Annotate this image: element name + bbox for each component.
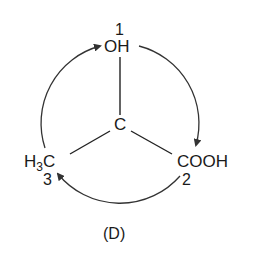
arrow-2-to-3 <box>58 174 180 203</box>
caption: (D) <box>103 226 125 242</box>
group-oh: OH <box>104 38 130 55</box>
priority-3: 3 <box>43 172 52 188</box>
group-cooh: COOH <box>177 153 228 170</box>
bond-cooh <box>131 131 172 154</box>
center-carbon: C <box>114 116 126 133</box>
bond-ch3 <box>70 131 110 154</box>
arrow-1-to-2 <box>139 46 199 145</box>
priority-1: 1 <box>115 22 124 38</box>
arrow-3-to-1 <box>41 46 100 148</box>
priority-2: 2 <box>182 172 191 188</box>
